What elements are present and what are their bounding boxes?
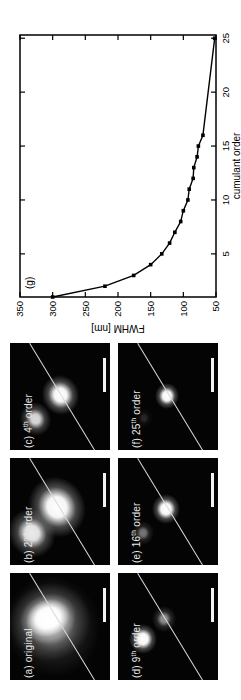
- data-point: [51, 295, 55, 299]
- data-point: [191, 177, 195, 181]
- data-point: [173, 231, 177, 235]
- panel-label-text: (a) original: [23, 628, 34, 678]
- panel-label: (f) 25th order: [128, 390, 142, 448]
- panel-label-text: (c) 4: [23, 427, 34, 448]
- x-tick-label: 25: [220, 33, 231, 44]
- y-tick-label: 200: [112, 301, 123, 317]
- panel-label-suffix: order: [131, 503, 142, 530]
- panel-label-text: (d) 9: [131, 656, 142, 678]
- data-point: [201, 133, 205, 137]
- panel-label-superscript: th: [130, 651, 137, 657]
- scale-bar: [211, 358, 214, 392]
- x-tick-label: 5: [220, 251, 231, 256]
- panel-label-superscript: th: [130, 530, 137, 536]
- data-point: [160, 252, 164, 256]
- image-panel-f: (f) 25th order: [118, 343, 218, 450]
- scale-bar: [103, 473, 106, 507]
- y-tick-label: 350: [14, 301, 25, 317]
- image-panel-c: (c) 4th order: [10, 343, 110, 450]
- x-tick-label: 15: [220, 141, 231, 152]
- panel-label: (a) original: [20, 628, 34, 678]
- panel-label-text: (b) 2: [23, 541, 34, 563]
- y-tick-label: 50: [210, 301, 221, 312]
- data-point: [192, 166, 196, 170]
- y-tick-label: 150: [145, 301, 156, 317]
- image-panel-a: (a) original: [10, 573, 110, 680]
- plot-box: [20, 35, 216, 297]
- data-point: [168, 241, 172, 245]
- x-tick-label: 10: [220, 195, 231, 206]
- profile-line: [137, 343, 203, 450]
- figure-stage: (a) original (b) 2nd order (c) 4th order…: [0, 0, 241, 700]
- panel-label: (d) 9th order: [128, 623, 142, 678]
- panel-label-suffix: order: [23, 506, 34, 533]
- data-point: [186, 198, 190, 202]
- panel-label-suffix: order: [131, 390, 142, 417]
- panel-label-text: (e) 16: [131, 536, 142, 563]
- y-tick-label: 100: [178, 301, 189, 317]
- panel-label-superscript: th: [130, 418, 137, 424]
- data-point: [149, 263, 153, 267]
- panel-label-superscript: th: [22, 421, 29, 427]
- data-point: [195, 155, 199, 159]
- data-point: [179, 220, 183, 224]
- image-panel-e: (e) 16th order: [118, 458, 218, 565]
- profile-line: [137, 458, 203, 565]
- data-point: [213, 36, 217, 40]
- scale-bar: [103, 358, 106, 392]
- data-point: [182, 209, 186, 213]
- rotated-figure: (a) original (b) 2nd order (c) 4th order…: [0, 0, 241, 700]
- data-point: [132, 274, 136, 278]
- fwhm-vs-order-chart: 51015202550100150200250300350cumulant or…: [0, 0, 241, 340]
- panel-label-suffix: order: [131, 623, 142, 650]
- scale-bar: [211, 588, 214, 622]
- y-tick-label: 250: [80, 301, 91, 317]
- panel-label: (c) 4th order: [20, 394, 34, 448]
- panel-label-suffix: order: [23, 394, 34, 421]
- panel-label: (e) 16th order: [128, 503, 142, 563]
- x-axis-label: cumulant order: [231, 132, 241, 199]
- scale-bar: [103, 588, 106, 622]
- data-point: [103, 284, 107, 288]
- panel-label: (b) 2nd order: [20, 506, 34, 563]
- image-panel-b: (b) 2nd order: [10, 458, 110, 565]
- y-tick-label: 300: [47, 301, 58, 317]
- y-axis-label: FWHM [nm]: [91, 323, 145, 334]
- fit-line: [53, 38, 215, 297]
- x-tick-label: 20: [220, 87, 231, 98]
- panel-label-text: (f) 25: [131, 423, 142, 448]
- chart-panel-letter: (g): [24, 277, 35, 289]
- panel-label-superscript: nd: [22, 534, 29, 542]
- scale-bar: [211, 473, 214, 507]
- image-panel-d: (d) 9th order: [118, 573, 218, 680]
- data-point: [197, 144, 201, 148]
- data-point: [187, 187, 191, 191]
